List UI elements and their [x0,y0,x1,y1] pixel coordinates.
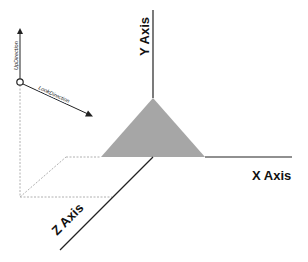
diagram-canvas: Y Axis X Axis Z Axis UpDirection LookDir… [0,0,308,262]
camera-position-icon [17,79,23,85]
look-direction-arrow-line [23,84,88,114]
y-axis-label: Y Axis [137,17,152,56]
up-arrowhead-icon [17,28,23,34]
guide-left-edge [20,157,66,197]
triangle-shape [101,98,205,157]
up-direction-label: UpDirection [13,41,19,70]
z-axis-label: Z Axis [49,200,87,238]
x-axis-label: X Axis [252,168,291,183]
look-direction-label: LookDirection [38,84,71,104]
